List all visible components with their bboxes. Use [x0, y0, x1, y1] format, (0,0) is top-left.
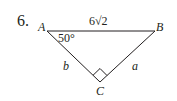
angle-a-label: 50°	[58, 32, 75, 44]
side-bc-label: a	[132, 60, 138, 72]
vertex-a-label: A	[38, 21, 45, 33]
right-angle-marker	[93, 69, 107, 76]
side-ab-label: 6√2	[89, 15, 108, 27]
side-ac-label: b	[63, 60, 69, 72]
side-bc-line	[100, 31, 155, 82]
vertex-b-label: B	[156, 21, 163, 33]
vertex-c-label: C	[96, 85, 104, 97]
